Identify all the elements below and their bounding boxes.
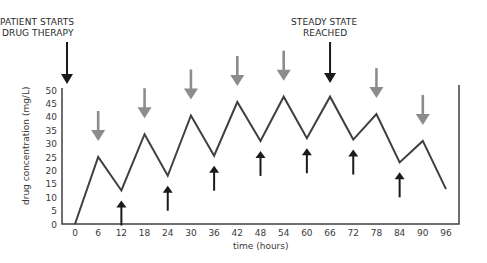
annotation-arrows	[61, 42, 336, 84]
gray-down-arrow-icon-head	[230, 75, 244, 86]
y-tick-label: 35	[46, 126, 57, 136]
x-tick-label: 48	[255, 228, 267, 238]
drug-concentration-chart: PATIENT STARTS DRUG THERAPY STEADY STATE…	[0, 0, 487, 263]
y-tick-label: 45	[46, 99, 57, 109]
x-tick-label: 90	[417, 228, 429, 238]
gray-down-arrow-icon-head	[277, 70, 291, 81]
gray-down-arrow-icon-head	[91, 130, 105, 141]
black-up-arrow-icon-head	[116, 201, 126, 208]
black-up-arrow-icon-head	[163, 186, 173, 193]
x-tick-label: 12	[116, 228, 127, 238]
x-tick-label: 84	[394, 228, 406, 238]
gray-down-arrow-icon-head	[369, 87, 383, 98]
black-up-arrow-icon-head	[395, 172, 405, 179]
x-tick-label: 72	[348, 228, 359, 238]
x-tick-label: 60	[301, 228, 313, 238]
x-tick-label: 96	[440, 228, 452, 238]
annotation-steady-line1: STEADY STATE	[291, 17, 357, 27]
start-therapy-arrow-icon-head	[61, 74, 73, 84]
y-tick-label: 20	[46, 166, 58, 176]
x-tick-label: 0	[72, 228, 78, 238]
y-tick-label: 40	[46, 112, 58, 122]
gray-down-arrow-icon-head	[416, 114, 430, 125]
y-tick-label: 50	[46, 86, 58, 96]
y-tick-label: 5	[51, 206, 57, 216]
y-axis-ticks: 05101520253035404550	[46, 86, 58, 230]
steady-state-arrow-icon-head	[324, 73, 336, 83]
black-up-arrow-icon-head	[302, 148, 312, 155]
y-tick-label: 10	[46, 193, 58, 203]
x-tick-label: 66	[324, 228, 336, 238]
black-up-arrow-icon-head	[256, 151, 266, 158]
x-tick-label: 42	[232, 228, 243, 238]
gray-down-arrow-icon-head	[138, 107, 152, 118]
x-tick-label: 78	[371, 228, 383, 238]
x-axis-title: time (hours)	[233, 241, 289, 251]
x-tick-label: 36	[208, 228, 220, 238]
black-up-arrow-icon-head	[209, 166, 219, 173]
x-tick-label: 24	[162, 228, 174, 238]
annotation-steady-line2: REACHED	[303, 28, 347, 38]
dose-arrows	[91, 51, 430, 141]
y-tick-label: 15	[46, 179, 57, 189]
x-tick-label: 6	[95, 228, 101, 238]
x-tick-label: 30	[185, 228, 197, 238]
annotation-start-line2: DRUG THERAPY	[2, 28, 74, 38]
x-tick-label: 18	[139, 228, 151, 238]
y-tick-label: 25	[46, 153, 57, 163]
annotation-start-line1: PATIENT STARTS	[0, 17, 74, 27]
gray-down-arrow-icon-head	[184, 88, 198, 99]
x-tick-label: 54	[278, 228, 290, 238]
y-axis-title: drug concentration (mg/L)	[21, 87, 31, 205]
black-up-arrow-icon-head	[348, 150, 358, 157]
y-tick-label: 30	[46, 139, 58, 149]
y-tick-label: 0	[51, 220, 57, 230]
x-axis-ticks: 06121824303642485460667278849096	[72, 228, 452, 238]
